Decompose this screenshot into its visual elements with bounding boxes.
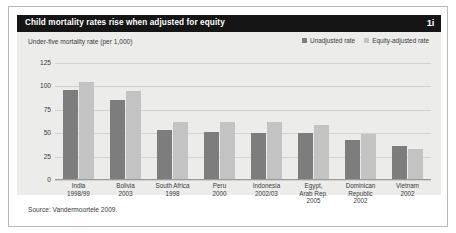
source-note: Source: Vandermoortele 2009. <box>28 206 117 213</box>
chart-panel: Under-five mortality rate (per 1,000) Un… <box>17 32 441 195</box>
bar-groups <box>55 63 431 179</box>
x-axis-label-line: 2000 <box>196 190 243 198</box>
legend-item-equity: Equity-adjusted rate <box>364 37 429 44</box>
bar-group <box>290 63 337 179</box>
legend-swatch-unadjusted-icon <box>302 38 307 43</box>
x-axis-label-line: 1998/99 <box>55 190 102 198</box>
y-axis-tick-label: 0 <box>47 176 51 183</box>
x-axis-category-label: Bolivia2003 <box>102 182 149 205</box>
bar-equity-adjusted <box>220 122 235 179</box>
x-axis-category-label: Indonesia2002/03 <box>243 182 290 205</box>
y-axis-tick-label: 100 <box>40 82 51 89</box>
bar-group <box>243 63 290 179</box>
x-axis-label-line: 2003 <box>102 190 149 198</box>
bar-equity-adjusted <box>361 134 376 179</box>
bar-equity-adjusted <box>267 122 282 179</box>
bar-unadjusted <box>345 140 360 179</box>
x-axis-label-line: South Africa <box>149 182 196 190</box>
figure-container: Child mortality rates rise when adjusted… <box>8 6 448 227</box>
figure-number: 1i <box>427 17 434 28</box>
x-axis-category-label: South Africa1998 <box>149 182 196 205</box>
bar-equity-adjusted <box>79 82 94 179</box>
bar-unadjusted <box>251 133 266 179</box>
x-axis-label-line: Arab Rep. <box>290 190 337 198</box>
x-axis-label-line: India <box>55 182 102 190</box>
x-axis-label-line: 2002 <box>384 190 431 198</box>
x-axis-category-label: Peru2000 <box>196 182 243 205</box>
bar-unadjusted <box>298 133 313 179</box>
x-axis-category-label: Vietnam2002 <box>384 182 431 205</box>
x-axis-label-line: Indonesia <box>243 182 290 190</box>
bar-group <box>384 63 431 179</box>
x-axis-label-line: 2002 <box>337 197 384 205</box>
bar-group <box>149 63 196 179</box>
x-axis-category-label: DominicanRepublic2002 <box>337 182 384 205</box>
bar-unadjusted <box>157 130 172 179</box>
bar-equity-adjusted <box>408 149 423 179</box>
legend-swatch-equity-icon <box>364 38 369 43</box>
legend-label-equity: Equity-adjusted rate <box>372 37 429 44</box>
figure-header-bar: Child mortality rates rise when adjusted… <box>17 15 441 32</box>
bar-group <box>102 63 149 179</box>
page-title: Child mortality rates rise when adjusted… <box>25 18 225 27</box>
y-axis-tick-label: 125 <box>40 59 51 66</box>
gridline: 0 <box>55 180 431 181</box>
x-axis-line <box>55 179 431 180</box>
bar-equity-adjusted <box>314 125 329 179</box>
bar-unadjusted <box>204 132 219 179</box>
y-axis-tick-label: 75 <box>44 106 51 113</box>
x-axis-category-label: Egypt,Arab Rep.2005 <box>290 182 337 205</box>
bar-group <box>337 63 384 179</box>
x-axis-label-line: 2005 <box>290 197 337 205</box>
x-axis-label-line: Vietnam <box>384 182 431 190</box>
x-axis-label-line: 1998 <box>149 190 196 198</box>
x-axis-label-line: Peru <box>196 182 243 190</box>
bar-unadjusted <box>392 146 407 179</box>
chart-legend: Unadjusted rate Equity-adjusted rate <box>302 37 429 44</box>
bar-group <box>55 63 102 179</box>
y-axis-tick-label: 25 <box>44 153 51 160</box>
bar-equity-adjusted <box>173 122 188 179</box>
x-axis-label-line: Egypt, <box>290 182 337 190</box>
legend-item-unadjusted: Unadjusted rate <box>302 37 355 44</box>
plot-area: 0255075100125 <box>55 63 431 180</box>
y-axis-title: Under-five mortality rate (per 1,000) <box>28 38 132 45</box>
bar-unadjusted <box>110 100 125 179</box>
bar-unadjusted <box>63 90 78 179</box>
x-axis-category-label: India1998/99 <box>55 182 102 205</box>
y-axis-tick-label: 50 <box>44 129 51 136</box>
legend-label-unadjusted: Unadjusted rate <box>310 37 355 44</box>
bar-group <box>196 63 243 179</box>
x-axis-label-line: 2002/03 <box>243 190 290 198</box>
bar-equity-adjusted <box>126 91 141 179</box>
x-axis-label-line: Dominican <box>337 182 384 190</box>
x-axis-label-line: Bolivia <box>102 182 149 190</box>
x-axis-label-line: Republic <box>337 190 384 198</box>
x-axis-labels: India1998/99Bolivia2003South Africa1998P… <box>55 182 431 205</box>
